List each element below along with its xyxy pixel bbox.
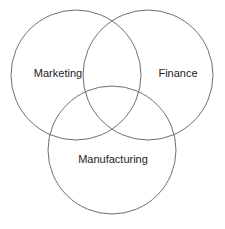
venn-circle-manufacturing[interactable] <box>48 86 176 214</box>
venn-diagram-canvas: Marketing Finance Manufacturing <box>0 0 225 229</box>
venn-diagram: Marketing Finance Manufacturing <box>0 0 225 229</box>
venn-label-finance: Finance <box>158 67 197 79</box>
venn-label-manufacturing: Manufacturing <box>78 153 148 165</box>
venn-label-marketing: Marketing <box>34 67 82 79</box>
